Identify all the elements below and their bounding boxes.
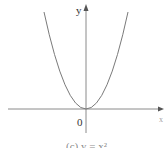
x-axis-arrow-icon	[158, 107, 164, 112]
x-axis-label: x	[159, 115, 163, 124]
parabola-figure: y 0 x (c) y = x²	[0, 0, 164, 148]
y-axis-label: y	[76, 4, 82, 16]
figure-caption: (c) y = x²	[66, 140, 108, 148]
origin-label: 0	[77, 116, 83, 128]
y-axis-arrow-icon	[84, 4, 89, 11]
